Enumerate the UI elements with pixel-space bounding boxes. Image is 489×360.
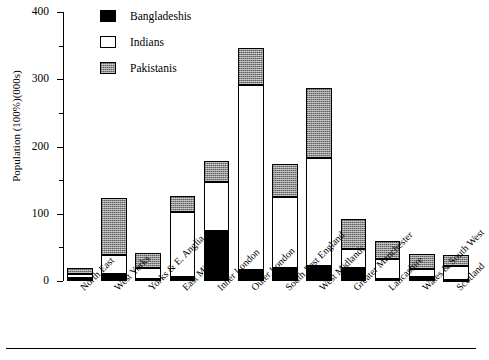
bar-segment-pakistanis [306, 88, 332, 158]
legend-label: Bangladeshis [130, 10, 191, 22]
bar-segment-pakistanis [272, 164, 298, 197]
bottom-divider-rule [6, 348, 476, 349]
y-axis-title: Population (100%)(000s) [10, 26, 22, 226]
bar-column[interactable] [272, 12, 298, 281]
grey-stipple-swatch [100, 62, 116, 74]
y-tick-label: 300 [19, 73, 49, 85]
black-filled-swatch [100, 10, 116, 22]
bar-segment-indians [204, 182, 230, 231]
y-tick-label: 400 [19, 6, 49, 18]
bar-column[interactable] [101, 12, 127, 281]
legend-label: Pakistanis [130, 62, 177, 74]
bar-segment-pakistanis [101, 198, 127, 254]
legend-item[interactable]: Indians [100, 36, 164, 48]
chart-figure: Population (100%)(000s) 0100200300400 No… [0, 0, 489, 360]
bar-column[interactable] [204, 12, 230, 281]
bar-segment-indians [238, 85, 264, 270]
y-tick-label: 100 [19, 208, 49, 220]
bar-segment-pakistanis [170, 196, 196, 212]
plot-area [63, 12, 483, 281]
y-tick-label: 0 [19, 275, 49, 287]
y-tick-label: 200 [19, 141, 49, 153]
y-tick-major [57, 281, 63, 282]
bar-column[interactable] [135, 12, 161, 281]
legend-item[interactable]: Pakistanis [100, 62, 177, 74]
bar-column[interactable] [67, 12, 93, 281]
white-open-swatch [100, 36, 116, 48]
bar-column[interactable] [409, 12, 435, 281]
bar-segment-pakistanis [204, 161, 230, 182]
bar-column[interactable] [238, 12, 264, 281]
legend-item[interactable]: Bangladeshis [100, 10, 191, 22]
legend-label: Indians [130, 36, 164, 48]
bar-column[interactable] [341, 12, 367, 281]
bar-segment-pakistanis [238, 48, 264, 86]
